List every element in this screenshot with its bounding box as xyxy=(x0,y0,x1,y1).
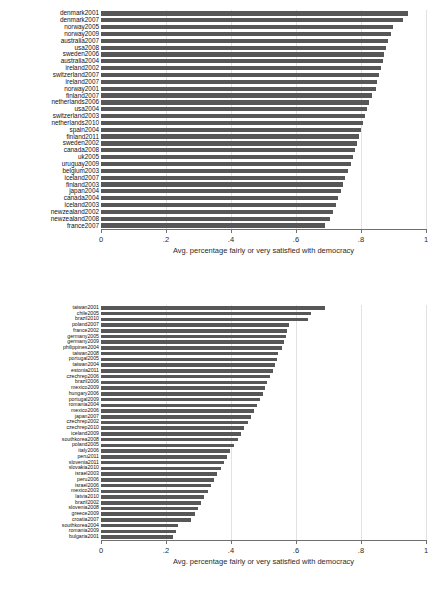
bar-row: southkorea2008 xyxy=(101,438,426,442)
bar-row: uk2005 xyxy=(101,155,426,159)
axis-tick-label: .6 xyxy=(293,546,299,555)
bar xyxy=(101,93,372,97)
chart-panel-top: denmark2001denmark2007norway2005norway20… xyxy=(0,0,426,282)
bar xyxy=(101,189,341,193)
bar xyxy=(101,217,330,221)
bar xyxy=(101,472,217,476)
bar xyxy=(101,323,289,327)
bar xyxy=(101,121,363,125)
bar-row: czechrep2006 xyxy=(101,375,426,379)
bar-row: norway2009 xyxy=(101,32,426,36)
bar-row: taiwan2008 xyxy=(101,352,426,356)
bar-row: finland2003 xyxy=(101,182,426,186)
plot-area-top: denmark2001denmark2007norway2005norway20… xyxy=(101,10,426,229)
bar xyxy=(101,444,234,448)
axis-tick-label: 1 xyxy=(424,235,428,244)
bar xyxy=(101,432,241,436)
gridline xyxy=(426,305,427,540)
bar-row: brazil2010 xyxy=(101,318,426,322)
bar xyxy=(101,386,265,390)
axis-tick xyxy=(426,229,427,233)
bar-row: slovakia2010 xyxy=(101,467,426,471)
bar xyxy=(101,73,379,77)
bar-row: newzealand2002 xyxy=(101,210,426,214)
bar-rows-bottom: taiwan2001chile2005brazil2010poland2007f… xyxy=(101,305,426,540)
bar xyxy=(101,495,204,499)
axis-tick xyxy=(296,540,297,544)
bar-row: czechrep2002 xyxy=(101,421,426,425)
bar xyxy=(101,426,244,430)
bar xyxy=(101,490,208,494)
bar xyxy=(101,128,361,132)
bar-row: peru2011 xyxy=(101,455,426,459)
axis-tick-label: .8 xyxy=(358,546,364,555)
bar-row: sweden2002 xyxy=(101,141,426,145)
axis-tick xyxy=(296,229,297,233)
bar-row: poland2007 xyxy=(101,323,426,327)
bar xyxy=(101,530,176,534)
bar xyxy=(101,335,286,339)
axis-tick xyxy=(101,540,102,544)
axis-tick-label: 0 xyxy=(99,235,103,244)
bar xyxy=(101,312,311,316)
bar-row: hungary2006 xyxy=(101,392,426,396)
bar-row: romania2009 xyxy=(101,530,426,534)
bar-row: netherlands2006 xyxy=(101,100,426,104)
axis-tick-label: .6 xyxy=(293,235,299,244)
bar xyxy=(101,501,201,505)
bar-row: bulgaria2001 xyxy=(101,535,426,539)
bar xyxy=(101,438,238,442)
axis-tick-label: 0 xyxy=(99,546,103,555)
bar xyxy=(101,363,275,367)
bar-row: australia2007 xyxy=(101,39,426,43)
bar-row: finland2011 xyxy=(101,134,426,138)
axis-tick-label: .4 xyxy=(228,235,234,244)
bar xyxy=(101,392,263,396)
bar-row: chile2005 xyxy=(101,312,426,316)
bar xyxy=(101,398,260,402)
bar xyxy=(101,518,191,522)
bar-row: italy2006 xyxy=(101,449,426,453)
bar xyxy=(101,409,254,413)
category-label: bulgaria2001 xyxy=(69,535,99,540)
bar xyxy=(101,358,277,362)
axis-spine xyxy=(101,540,426,541)
x-axis-title-top: Avg. percentage fairly or very satisfied… xyxy=(101,246,426,255)
bar xyxy=(101,369,273,373)
bar-row: germany2009 xyxy=(101,340,426,344)
bar-row: israel2006 xyxy=(101,484,426,488)
bar-row: brazil2002 xyxy=(101,501,426,505)
bar xyxy=(101,455,227,459)
bar-row: denmark2007 xyxy=(101,18,426,22)
bar xyxy=(101,32,391,36)
axis-tick-label: .2 xyxy=(163,235,169,244)
bar xyxy=(101,66,381,70)
axis-tick xyxy=(101,229,102,233)
bar xyxy=(101,46,386,50)
bar xyxy=(101,210,333,214)
bar xyxy=(101,318,308,322)
bar xyxy=(101,162,351,166)
bar xyxy=(101,484,211,488)
bar xyxy=(101,182,343,186)
bar xyxy=(101,404,257,408)
bar-row: iceland2007 xyxy=(101,176,426,180)
bar xyxy=(101,329,287,333)
bar-row: australia2004 xyxy=(101,59,426,63)
bar-row: estonia2011 xyxy=(101,369,426,373)
bar xyxy=(101,196,338,200)
bar-row: southkorea2004 xyxy=(101,524,426,528)
bar-row: norway2005 xyxy=(101,25,426,29)
bar-row: czechrep2010 xyxy=(101,426,426,430)
bar xyxy=(101,467,221,471)
bar xyxy=(101,100,369,104)
bar-row: france2007 xyxy=(101,223,426,227)
bar-row: france2002 xyxy=(101,329,426,333)
bar xyxy=(101,306,325,310)
bar-row: japan2004 xyxy=(101,189,426,193)
bar xyxy=(101,478,214,482)
bar-row: israel2003 xyxy=(101,472,426,476)
bar-row: portugal2009 xyxy=(101,398,426,402)
bar xyxy=(101,512,195,516)
bar-row: usa2004 xyxy=(101,107,426,111)
